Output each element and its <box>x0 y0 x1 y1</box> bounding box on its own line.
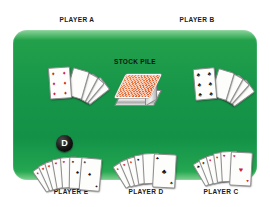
dealer-button-letter: D <box>56 135 73 152</box>
dealer-button[interactable]: D <box>56 135 73 152</box>
card-front-player-b: ♣ ♣ ♣ ♣ ♣ ♣ <box>193 67 218 101</box>
hand-player-c[interactable]: ♣ ♠ ♦ ♦ ♥ ♥ ♥ ♥ <box>197 150 261 200</box>
game-table: STOCK PILE D ♦ ♦ ♦ ♦ ♦ ♦ <box>13 30 257 180</box>
player-label-a: PLAYER A <box>41 16 113 23</box>
hand-player-d[interactable]: ♦ ♥ ♦ ♠ ♣ ♣ ♣ <box>117 152 183 202</box>
card-front-player-c: ♥ ♥ ♥ <box>229 151 253 186</box>
card-front-player-d: ♣ ♣ ♣ <box>152 153 177 188</box>
card-front-player-e: ♠ ♠ ♠ <box>79 157 103 192</box>
stock-pile-deck[interactable] <box>117 72 159 110</box>
stock-pile-label: STOCK PILE <box>100 58 170 65</box>
table-top-sheen <box>13 30 257 40</box>
player-label-b: PLAYER B <box>161 16 233 23</box>
hand-player-a[interactable]: ♦ ♦ ♦ ♦ ♦ ♦ <box>47 66 107 118</box>
card-table-scene: PLAYER A PLAYER B PLAYER E PLAYER D PLAY… <box>0 0 270 207</box>
hand-player-b[interactable]: ♦ ♣ ♣ ♣ ♣ ♣ ♣ <box>191 66 253 120</box>
card-front-player-a: ♦ ♦ ♦ ♦ ♦ ♦ <box>48 66 72 99</box>
hand-player-e[interactable]: ♦ ♥ ♥ ♥ ♥ ♠ ♠ ♠ ♠ ♠ <box>37 155 105 207</box>
